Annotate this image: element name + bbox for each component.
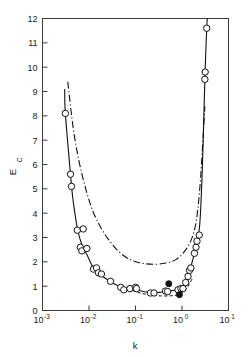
y-tick-label: 2 (32, 257, 37, 267)
y-tick-label: 4 (32, 209, 37, 219)
y-tick-label: 3 (32, 233, 37, 243)
open-data-point (68, 183, 74, 189)
y-axis-ticks (43, 19, 48, 311)
open-data-point (151, 290, 157, 296)
y-tick-label: 6 (32, 160, 37, 170)
y-tick-label: 1 (32, 282, 37, 292)
x-tick-label: 10-1 (126, 313, 143, 325)
y-tick-label: 11 (28, 38, 37, 48)
filled-data-point (166, 281, 172, 287)
y-tick-label: 10 (27, 63, 37, 73)
open-data-point (188, 265, 194, 271)
open-data-point (180, 285, 186, 291)
y-tick-label: 8 (32, 111, 37, 121)
y-axis-tick-labels: 0123456789101112 (27, 14, 37, 316)
svg-text:0: 0 (185, 313, 189, 320)
x-axis-tick-labels: 10-310-210-1100101 (33, 313, 235, 325)
y-tick-label: 12 (27, 14, 37, 24)
open-data-point (133, 285, 139, 291)
open-data-point (80, 226, 86, 232)
x-tick-label: 100 (173, 313, 189, 325)
open-data-point (107, 278, 113, 284)
open-data-point (202, 69, 208, 75)
x-tick-label: 10-2 (80, 313, 97, 325)
svg-text:-2: -2 (91, 313, 97, 320)
x-tick-label: 101 (219, 313, 235, 325)
open-data-point (84, 245, 90, 251)
open-data-point (67, 171, 73, 177)
open-data-point (194, 238, 200, 244)
y-tick-label: 9 (32, 87, 37, 97)
svg-text:-3: -3 (44, 313, 50, 320)
svg-text:C: C (16, 157, 23, 162)
dash-dot-theory-curve (68, 82, 205, 265)
svg-text:10: 10 (33, 315, 43, 325)
x-axis-title: k (133, 340, 138, 351)
open-data-point (98, 271, 104, 277)
open-data-point (121, 287, 127, 293)
open-data-point (164, 288, 170, 294)
y-axis-title: E C (7, 157, 23, 175)
svg-text:E: E (7, 169, 18, 175)
open-data-point (185, 273, 191, 279)
plot-frame (43, 19, 229, 311)
svg-text:10: 10 (173, 315, 183, 325)
open-data-point (191, 250, 197, 256)
y-tick-label: 7 (32, 136, 37, 146)
svg-text:-1: -1 (137, 313, 143, 320)
data-curves (65, 19, 208, 296)
svg-text:10: 10 (80, 315, 90, 325)
svg-text:1: 1 (231, 313, 235, 320)
y-tick-label: 5 (32, 184, 37, 194)
svg-text:10: 10 (219, 315, 229, 325)
open-data-point (204, 25, 210, 31)
chart-svg: 0123456789101112 10-310-210-1100101 E C … (0, 0, 249, 357)
open-data-point (74, 227, 80, 233)
svg-text:10: 10 (126, 315, 136, 325)
open-data-point (196, 232, 202, 238)
svg-text:k: k (133, 340, 138, 351)
chart-figure: 0123456789101112 10-310-210-1100101 E C … (0, 0, 249, 357)
x-tick-label: 10-3 (33, 313, 50, 325)
open-data-point (193, 244, 199, 250)
open-data-point (202, 76, 208, 82)
open-data-point (62, 110, 68, 116)
data-markers (62, 25, 210, 298)
x-axis-ticks (43, 306, 229, 311)
filled-data-point (176, 292, 182, 298)
open-data-point (182, 279, 188, 285)
